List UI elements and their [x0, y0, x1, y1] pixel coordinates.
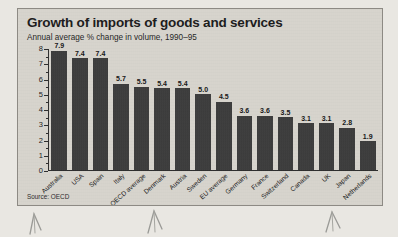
bar: 7.4: [72, 58, 88, 170]
y-axis-label: 8: [33, 45, 43, 53]
bar-series: 7.9Australia7.4USA7.4Spain5.7Italy5.5OEC…: [49, 49, 378, 170]
x-axis-line: [48, 170, 378, 171]
source-note: Source: OECD: [27, 193, 69, 200]
bar-value-label: 3.6: [239, 107, 249, 114]
y-axis-label: 1: [33, 152, 43, 160]
bar-slot: 3.6France: [255, 49, 276, 170]
bar: 3.1: [298, 123, 314, 170]
bar: 3.6: [237, 116, 253, 170]
y-axis-tick: [44, 80, 48, 81]
y-axis-label: 7: [33, 60, 43, 68]
x-axis-category-label: Australia: [40, 172, 64, 194]
bar-slot: 5.4Austria: [172, 49, 193, 170]
bar: 1.9: [360, 141, 376, 170]
x-axis-category-label: Austria: [167, 172, 187, 191]
bar: 7.4: [93, 58, 109, 170]
bar-value-label: 7.4: [75, 50, 85, 57]
bar-value-label: 1.9: [363, 133, 373, 140]
bar-value-label: 3.6: [260, 107, 270, 114]
bar-value-label: 3.5: [281, 109, 291, 116]
y-axis-tick: [44, 125, 48, 126]
y-axis-label: 3: [33, 121, 43, 129]
x-axis-category-label: UK: [320, 172, 331, 183]
y-axis-minor-tick: [46, 133, 49, 134]
chart-subtitle: Annual average % change in volume, 1990–…: [27, 33, 197, 42]
bar-value-label: 7.4: [96, 50, 106, 57]
x-axis-category-label: Canada: [289, 172, 311, 193]
y-axis-tick: [44, 110, 48, 111]
y-axis-tick: [44, 95, 48, 96]
chart-title: Growth of imports of goods and services: [27, 15, 282, 30]
bar: 5.5: [134, 87, 150, 170]
bar-slot: 3.6Germany: [234, 49, 255, 170]
bar-value-label: 5.0: [198, 86, 208, 93]
bar-value-label: 5.5: [137, 78, 147, 85]
x-axis-category-label: Spain: [88, 172, 105, 188]
bar-value-label: 5.4: [157, 80, 167, 87]
bar-slot: 1.9Netherlands: [357, 49, 378, 170]
bar-slot: 5.4Denmark: [152, 49, 173, 170]
bar-slot: 7.4USA: [70, 49, 91, 170]
bar: 5.0: [195, 94, 211, 170]
y-axis-minor-tick: [46, 57, 49, 58]
chart-panel: Growth of imports of goods and services …: [17, 8, 383, 206]
y-axis-label: 4: [33, 106, 43, 114]
bar-slot: 3.1Canada: [296, 49, 317, 170]
bar-slot: 2.8Japan: [337, 49, 358, 170]
y-axis-minor-tick: [46, 87, 49, 88]
bar-slot: 5.5OECD average: [131, 49, 152, 170]
bar-value-label: 4.5: [219, 93, 229, 100]
bar-slot: 3.1UK: [316, 49, 337, 170]
y-axis-tick: [44, 49, 48, 50]
bar: 3.1: [319, 123, 335, 170]
x-axis-category-label: Japan: [334, 172, 352, 189]
bar-slot: 7.4Spain: [90, 49, 111, 170]
bar-value-label: 7.9: [54, 42, 64, 49]
bar-slot: 5.0Sweden: [193, 49, 214, 170]
plot-area: 012345678 7.9Australia7.4USA7.4Spain5.7I…: [48, 49, 378, 171]
bar: 5.4: [154, 88, 170, 170]
bar-slot: 7.9Australia: [49, 49, 70, 170]
bar-slot: 3.5Switzerland: [275, 49, 296, 170]
y-axis-tick: [44, 141, 48, 142]
bar-value-label: 5.4: [178, 80, 188, 87]
bar: 3.5: [278, 117, 294, 170]
bar: 4.5: [216, 102, 232, 170]
x-axis-category-label: Italy: [112, 172, 126, 185]
y-axis-minor-tick: [46, 163, 49, 164]
bar-value-label: 3.1: [322, 115, 332, 122]
bar-value-label: 5.7: [116, 75, 126, 82]
y-axis-label: 5: [33, 91, 43, 99]
bar: 5.7: [113, 84, 129, 170]
x-axis-category-label: USA: [70, 172, 85, 186]
y-axis-label: 0: [33, 167, 43, 175]
y-axis-minor-tick: [46, 148, 49, 149]
y-axis-label: 2: [33, 137, 43, 145]
bar: 5.4: [175, 88, 191, 170]
y-axis-label: 6: [33, 76, 43, 84]
y-axis-minor-tick: [46, 118, 49, 119]
bar: 3.6: [257, 116, 273, 170]
y-axis-minor-tick: [46, 102, 49, 103]
y-axis-minor-tick: [46, 72, 49, 73]
bar-slot: 4.5EU average: [214, 49, 235, 170]
y-axis-tick: [44, 64, 48, 65]
bar-slot: 5.7Italy: [111, 49, 132, 170]
bar: 7.9: [51, 51, 67, 170]
bar-value-label: 2.8: [342, 119, 352, 126]
bar: 2.8: [339, 128, 355, 170]
y-axis-tick: [44, 171, 48, 172]
bar-value-label: 3.1: [301, 115, 311, 122]
y-axis-tick: [44, 156, 48, 157]
